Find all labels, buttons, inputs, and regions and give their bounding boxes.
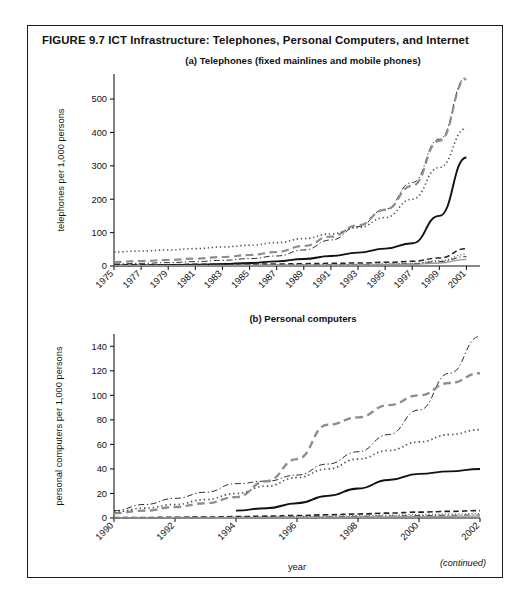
series-line-series-3-dotted — [114, 128, 466, 252]
y-tick-label: 120 — [91, 366, 107, 376]
y-axis-label: telephones per 1,000 persons — [56, 108, 66, 231]
y-tick-label: 300 — [91, 161, 107, 171]
y-tick-label: 80 — [97, 415, 107, 425]
series-group — [114, 77, 466, 265]
figure-title: FIGURE 9.7 ICT Infrastructure: Telephone… — [42, 34, 469, 46]
x-tick-label: 1995 — [365, 268, 387, 290]
x-tick-label: 1999 — [419, 268, 441, 290]
x-tick-label: 1991 — [311, 268, 333, 290]
x-tick-label: 1992 — [155, 520, 177, 542]
y-tick-label: 20 — [97, 489, 107, 499]
x-tick-label: 2000 — [399, 520, 421, 542]
x-axis-label: year — [288, 562, 306, 572]
y-tick-label: 200 — [91, 195, 107, 205]
series-line-series-1-dashdot — [114, 336, 480, 510]
chart-panel-b: (b) Personal computers020406080100120140… — [28, 308, 500, 578]
x-tick-label: 2001 — [446, 268, 468, 290]
x-tick-label: 1990 — [94, 520, 116, 542]
x-tick-label: 1981 — [175, 268, 197, 290]
x-tick-label: 1977 — [121, 268, 143, 290]
y-tick-label: 60 — [97, 440, 107, 450]
x-tick-label: 1987 — [256, 268, 278, 290]
x-tick-label: 1985 — [229, 268, 251, 290]
y-tick-label: 500 — [91, 94, 107, 104]
y-axis-label: personal computers per 1,000 persons — [54, 346, 64, 506]
series-line-series-3-dotted — [114, 430, 480, 512]
x-tick-label: 1993 — [338, 268, 360, 290]
x-tick-label: 1998 — [338, 520, 360, 542]
y-tick-label: 100 — [91, 391, 107, 401]
x-tick-label: 1997 — [392, 268, 414, 290]
x-tick-label: 1994 — [216, 520, 238, 542]
y-tick-label: 400 — [91, 128, 107, 138]
x-tick-label: 1983 — [202, 268, 224, 290]
series-line-series-1-dashdot — [114, 77, 466, 264]
x-tick-label: 1989 — [283, 268, 305, 290]
panel-title: (a) Telephones (fixed mainlines and mobi… — [185, 55, 420, 66]
continued-note: (continued) — [440, 558, 486, 568]
figure-page: FIGURE 9.7 ICT Infrastructure: Telephone… — [0, 0, 526, 608]
series-line-series-4-solid — [236, 469, 480, 511]
y-tick-label: 140 — [91, 342, 107, 352]
y-tick-label: 40 — [97, 464, 107, 474]
x-tick-label: 1979 — [148, 268, 170, 290]
series-line-series-2-longdash — [114, 373, 480, 513]
y-tick-label: 100 — [91, 228, 107, 238]
panel-title: (b) Personal computers — [249, 313, 356, 324]
figure-box: FIGURE 9.7 ICT Infrastructure: Telephone… — [27, 25, 503, 578]
chart-panel-a: (a) Telephones (fixed mainlines and mobi… — [28, 52, 500, 302]
series-group — [114, 336, 480, 517]
x-tick-label: 2002 — [460, 520, 482, 542]
x-tick-label: 1975 — [94, 268, 116, 290]
x-tick-label: 1996 — [277, 520, 299, 542]
series-line-series-4-solid — [114, 157, 466, 265]
series-line-series-2-longdash — [114, 79, 466, 262]
